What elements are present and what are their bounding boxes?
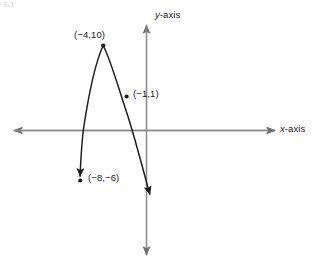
parabola-left-branch xyxy=(80,46,103,177)
vertex-point-marker xyxy=(101,43,105,47)
vertex-label: (−4,10) xyxy=(74,30,105,40)
point-marker-minus1-1 xyxy=(125,94,129,98)
plot-canvas xyxy=(0,0,319,271)
y-axis-label: y-axis xyxy=(155,10,180,20)
point-label-minus8-minus6: (−8,−6) xyxy=(88,173,119,183)
parabola-figure: 8-1 xyxy=(0,0,319,271)
y-axis-label-rest: -axis xyxy=(160,9,181,20)
x-axis-label-rest: -axis xyxy=(285,123,306,134)
point-marker-minus8-minus6 xyxy=(78,178,82,182)
x-axis-label: x-axis xyxy=(280,124,305,134)
point-label-minus1-1: (−1,1) xyxy=(133,89,159,99)
